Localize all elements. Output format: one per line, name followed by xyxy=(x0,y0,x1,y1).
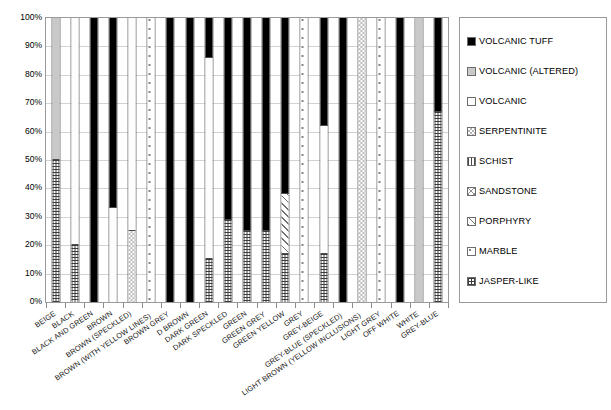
bar-segment-valt xyxy=(416,18,423,302)
stacked-bar[interactable] xyxy=(338,18,347,302)
bar-slot xyxy=(257,18,276,302)
bar-segment-jasper xyxy=(320,254,327,302)
stacked-bar[interactable] xyxy=(51,18,60,302)
y-axis-tick-label: 100% xyxy=(2,13,42,21)
bar-segment-jasper xyxy=(205,259,212,302)
y-axis-tick-label: 80% xyxy=(2,70,42,78)
bar-slot xyxy=(199,18,218,302)
stacked-bar[interactable] xyxy=(185,18,194,302)
legend-swatch-sand-icon xyxy=(467,187,476,196)
legend-label: SERPENTINITE xyxy=(479,126,547,136)
bar-segment-serp xyxy=(129,231,136,302)
y-axis-tick-label: 20% xyxy=(2,240,42,248)
stacked-bar[interactable] xyxy=(70,18,79,302)
bar-segment-jasper xyxy=(435,112,442,302)
legend-item-tuff[interactable]: VOLCANIC TUFF xyxy=(467,26,601,56)
stacked-bar[interactable] xyxy=(166,18,175,302)
bar-segment-volc xyxy=(320,126,327,254)
stacked-bar[interactable] xyxy=(415,18,424,302)
legend-label: MARBLE xyxy=(479,246,517,256)
legend-swatch-serp-icon xyxy=(467,127,476,136)
legend-item-porph[interactable]: PORPHYRY xyxy=(467,206,601,236)
bar-slot xyxy=(218,18,237,302)
stacked-bar[interactable] xyxy=(376,18,385,302)
stacked-bar[interactable] xyxy=(319,18,328,302)
y-axis-tick-label: 90% xyxy=(2,41,42,49)
stacked-bar[interactable] xyxy=(434,18,443,302)
bar-segment-tuff xyxy=(397,18,404,302)
plot-area xyxy=(45,17,449,303)
y-axis-tick-label: 60% xyxy=(2,127,42,135)
legend-label: SCHIST xyxy=(479,156,513,166)
legend-item-volc[interactable]: VOLCANIC xyxy=(467,86,601,116)
legend-swatch-schist-icon xyxy=(467,157,476,166)
chart-screenshot: 100%90%80%70%60%50%40%30%20%10%0% BEIGEB… xyxy=(0,0,611,410)
bar-segment-jasper xyxy=(71,245,78,302)
bar-segment-jasper xyxy=(282,254,289,302)
legend-label: PORPHYRY xyxy=(479,216,531,226)
bar-slot xyxy=(123,18,142,302)
bar-slot xyxy=(333,18,352,302)
bar-slot xyxy=(180,18,199,302)
y-axis-tick-label: 40% xyxy=(2,183,42,191)
stacked-bar[interactable] xyxy=(300,18,309,302)
legend-label: VOLCANIC xyxy=(479,96,527,106)
bar-slot xyxy=(429,18,448,302)
stacked-bar[interactable] xyxy=(128,18,137,302)
legend-item-jasper[interactable]: JASPER-LIKE xyxy=(467,266,601,296)
legend-label: VOLCANIC (ALTERED) xyxy=(479,66,578,76)
bar-segment-tuff xyxy=(243,18,250,231)
stacked-bar[interactable] xyxy=(357,18,366,302)
bar-segment-tuff xyxy=(205,18,212,58)
bar-segment-tuff xyxy=(224,18,231,220)
bar-slot xyxy=(142,18,161,302)
bar-segment-marble xyxy=(377,18,384,302)
legend-item-valt[interactable]: VOLCANIC (ALTERED) xyxy=(467,56,601,86)
stacked-bar[interactable] xyxy=(147,18,156,302)
bar-segment-tuff xyxy=(320,18,327,126)
legend-swatch-valt-icon xyxy=(467,67,476,76)
bar-segment-jasper xyxy=(52,160,59,302)
stacked-bar[interactable] xyxy=(262,18,271,302)
stacked-bar[interactable] xyxy=(108,18,117,302)
bar-slot xyxy=(276,18,295,302)
bar-segment-volc xyxy=(129,18,136,231)
stacked-bar[interactable] xyxy=(396,18,405,302)
legend-swatch-marble-icon xyxy=(467,247,476,256)
legend-swatch-jasper-icon xyxy=(467,277,476,286)
bar-segment-jasper xyxy=(224,220,231,302)
bar-segment-tuff xyxy=(339,18,346,302)
legend-item-sand[interactable]: SANDSTONE xyxy=(467,176,601,206)
legend-label: VOLCANIC TUFF xyxy=(479,36,553,46)
legend-label: SANDSTONE xyxy=(479,186,537,196)
legend-label: JASPER-LIKE xyxy=(479,276,539,286)
bar-segment-serp xyxy=(358,18,365,302)
bar-series-group xyxy=(46,18,448,302)
bar-segment-jasper xyxy=(243,231,250,302)
bar-segment-tuff xyxy=(167,18,174,302)
stacked-bar[interactable] xyxy=(204,18,213,302)
y-axis-tick-label: 30% xyxy=(2,212,42,220)
bar-slot xyxy=(65,18,84,302)
bar-segment-tuff xyxy=(109,18,116,208)
legend-swatch-tuff-icon xyxy=(467,37,476,46)
legend-item-serp[interactable]: SERPENTINITE xyxy=(467,116,601,146)
y-axis-labels: 100%90%80%70%60%50%40%30%20%10%0% xyxy=(0,17,42,305)
legend-item-schist[interactable]: SCHIST xyxy=(467,146,601,176)
stacked-bar[interactable] xyxy=(281,18,290,302)
bar-segment-porph xyxy=(282,194,289,254)
stacked-bar[interactable] xyxy=(242,18,251,302)
bar-slot xyxy=(410,18,429,302)
stacked-bar[interactable] xyxy=(223,18,232,302)
bar-slot xyxy=(237,18,256,302)
bar-slot xyxy=(391,18,410,302)
legend-swatch-volc-icon xyxy=(467,97,476,106)
bar-slot xyxy=(371,18,390,302)
x-axis-labels: BEIGEBLACKBLACK AND GREENBROWNBROWN (SPE… xyxy=(0,303,460,410)
bar-segment-tuff xyxy=(90,18,97,302)
bar-segment-volc xyxy=(71,18,78,245)
bar-segment-volc xyxy=(205,58,212,260)
legend-item-marble[interactable]: MARBLE xyxy=(467,236,601,266)
chart-legend: VOLCANIC TUFFVOLCANIC (ALTERED)VOLCANICS… xyxy=(459,17,607,303)
stacked-bar[interactable] xyxy=(89,18,98,302)
